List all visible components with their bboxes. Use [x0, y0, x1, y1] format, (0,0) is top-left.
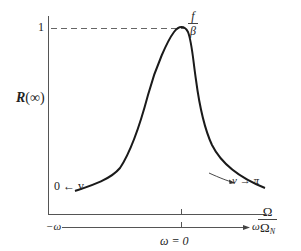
- peak-numerator: f: [189, 10, 196, 22]
- y-axis-label: R(∞): [16, 91, 45, 105]
- omega-axis-arrowhead: [243, 225, 250, 230]
- diagram-canvas: [0, 0, 301, 251]
- y-axis-label-arg: (∞): [25, 90, 44, 105]
- omega-zero-label: ω = 0: [160, 235, 189, 247]
- y-axis-top-tick-label: 1: [38, 21, 44, 33]
- peak-denominator: β: [188, 25, 198, 37]
- x-axis-denominator-main: Ω: [260, 220, 270, 235]
- y-axis-label-main: R: [16, 90, 25, 105]
- right-asymptote-label: v → π: [232, 175, 259, 186]
- response-curve: [75, 27, 265, 191]
- response-diagram: R(∞) 1 f β Ω ΩN 0 ← v v → π −ω ω ω = 0: [0, 0, 301, 251]
- x-axis-numerator: Ω: [261, 205, 275, 218]
- x-axis-denominator: ΩN: [258, 221, 277, 236]
- x-axis-denominator-sub: N: [270, 227, 275, 236]
- right-asymptote-arrow: [209, 173, 232, 182]
- omega-axis-right-label: ω: [252, 221, 260, 232]
- omega-axis-left-label: −ω: [46, 221, 61, 232]
- peak-value-fraction: f β: [188, 10, 198, 37]
- x-axis-label-fraction: Ω ΩN: [258, 205, 277, 236]
- left-asymptote-label: 0 ← v: [54, 180, 84, 192]
